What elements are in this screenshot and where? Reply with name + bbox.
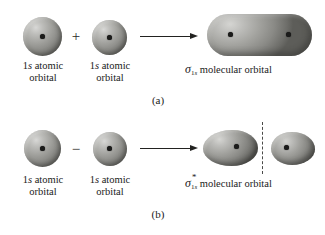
atomic-orbital-sphere-b2: [93, 132, 127, 166]
antibonding-lobe-left: [203, 130, 258, 166]
antibonding-lobe-right: [271, 132, 315, 165]
nucleus-dot: [40, 34, 45, 39]
panel-label-b: (b): [138, 208, 178, 220]
atomic-orbital-sphere-a2: [92, 20, 127, 55]
nucleus-dot: [107, 146, 112, 151]
caption-atomic-orbital-a2: 1s atomic orbital: [69, 60, 151, 83]
orbital-diagram-figure: + 1s atomic orbital 1s atomic orbital σ1…: [0, 0, 325, 235]
reaction-arrow-a: [140, 33, 198, 41]
nucleus-dot: [286, 32, 291, 37]
caption-molecular-orbital-a: σ1s molecular orbital: [185, 62, 272, 77]
nodal-plane-dashed-line: [262, 122, 263, 174]
operator-minus-b: −: [68, 142, 84, 157]
reaction-arrow-b: [140, 145, 198, 153]
caption-line1-suffix: atomic: [32, 60, 63, 71]
caption-atomic-orbital-b2: 1s atomic orbital: [69, 174, 151, 197]
panel-label-a: (a): [138, 94, 178, 106]
molecular-orbital-text: molecular orbital: [197, 178, 272, 189]
panel-a-bonding: + 1s atomic orbital 1s atomic orbital σ1…: [0, 2, 325, 117]
molecular-orbital-text: molecular orbital: [197, 64, 272, 75]
atomic-orbital-sphere-b1: [24, 130, 61, 167]
caption-line2: orbital: [29, 186, 56, 197]
antibonding-star: *: [192, 172, 197, 182]
sigma-symbol: σ: [185, 62, 191, 76]
caption-molecular-orbital-b: σ*1s molecular orbital: [185, 176, 272, 191]
nucleus-dot: [40, 146, 45, 151]
caption-line1-suffix: atomic: [32, 174, 63, 185]
caption-line2: orbital: [96, 72, 123, 83]
caption-line2: orbital: [29, 72, 56, 83]
nucleus-dot: [228, 32, 233, 37]
caption-line1-suffix: atomic: [99, 60, 130, 71]
caption-line1-suffix: atomic: [99, 174, 130, 185]
nucleus-dot: [284, 145, 289, 150]
molecular-orbital-capsule-a: [207, 14, 312, 56]
nucleus-dot: [107, 35, 112, 40]
nucleus-dot: [234, 144, 239, 149]
panel-b-antibonding: − 1s atomic orbital 1s atomic orbital: [0, 118, 325, 233]
operator-plus-a: +: [68, 29, 84, 44]
atomic-orbital-sphere-a1: [23, 17, 62, 56]
sigma-symbol: σ*: [185, 176, 191, 190]
caption-line2: orbital: [96, 186, 123, 197]
